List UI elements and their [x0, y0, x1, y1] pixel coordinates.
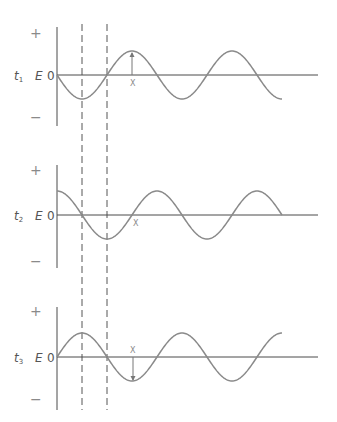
axis-label-e: E [35, 69, 43, 83]
marker-x-label: X [130, 346, 136, 355]
plus-sign: + [30, 162, 42, 178]
plus-sign: + [30, 303, 42, 319]
axis-label-e: E [35, 209, 43, 223]
minus-sign: − [30, 253, 42, 269]
zero-label: 0 [47, 69, 55, 83]
marker-x-label: X [133, 219, 139, 228]
time-label: t1 [14, 69, 23, 84]
marker-x-label: X [130, 79, 136, 88]
time-label: t3 [14, 351, 23, 366]
standing-wave-diagram: + − t1 E 0 X + − t2 E 0 X + − t3 E 0 X [0, 0, 337, 422]
panel-t1: + − t1 E 0 X [14, 25, 318, 126]
arrow-head-icon [130, 52, 135, 57]
panel-t3: + − t3 E 0 X [14, 303, 318, 410]
minus-sign: − [30, 109, 42, 125]
time-label: t2 [14, 209, 23, 224]
zero-label: 0 [47, 209, 55, 223]
plus-sign: + [30, 25, 42, 41]
zero-label: 0 [47, 351, 55, 365]
axis-label-e: E [35, 351, 43, 365]
minus-sign: − [30, 391, 42, 407]
panel-t2: + − t2 E 0 X [14, 162, 318, 269]
